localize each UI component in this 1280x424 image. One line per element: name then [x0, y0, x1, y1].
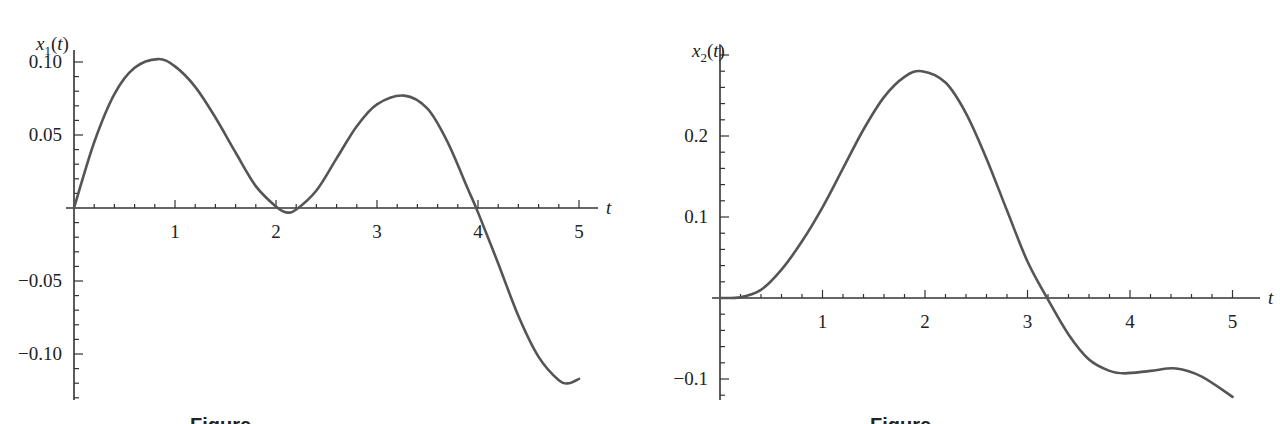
chart-x1-svg: 123450.100.05−0.05−0.10tx1(t) — [0, 0, 640, 424]
y-tick-label: 0.05 — [29, 124, 62, 145]
x-tick-label: 2 — [271, 221, 281, 242]
x-tick-label: 4 — [1125, 311, 1135, 332]
x-tick-label: 5 — [1228, 311, 1238, 332]
data-curve — [720, 71, 1233, 397]
x-tick-label: 2 — [920, 311, 930, 332]
y-tick-label: −0.1 — [674, 368, 708, 389]
x-axis-label: t — [606, 197, 612, 218]
chart-x2-svg: 123450.20.1−0.1tx2(t) — [640, 0, 1280, 424]
x-tick-label: 1 — [170, 221, 180, 242]
y-tick-label: −0.10 — [18, 343, 62, 364]
y-tick-label: 0.2 — [684, 125, 708, 146]
figure-caption-left: Figure — [190, 414, 251, 424]
y-tick-label: 0.1 — [684, 206, 708, 227]
data-curve — [74, 59, 579, 383]
chart-x1: 123450.100.05−0.05−0.10tx1(t) — [0, 0, 640, 424]
x-tick-label: 3 — [1023, 311, 1033, 332]
chart-x2: 123450.20.1−0.1tx2(t) — [640, 0, 1280, 424]
y-tick-label: −0.05 — [18, 270, 62, 291]
figure-caption-right: Figure — [870, 414, 931, 424]
x-tick-label: 1 — [818, 311, 828, 332]
x-axis-label: t — [1268, 287, 1274, 308]
x-tick-label: 3 — [372, 221, 382, 242]
x-tick-label: 5 — [574, 221, 584, 242]
